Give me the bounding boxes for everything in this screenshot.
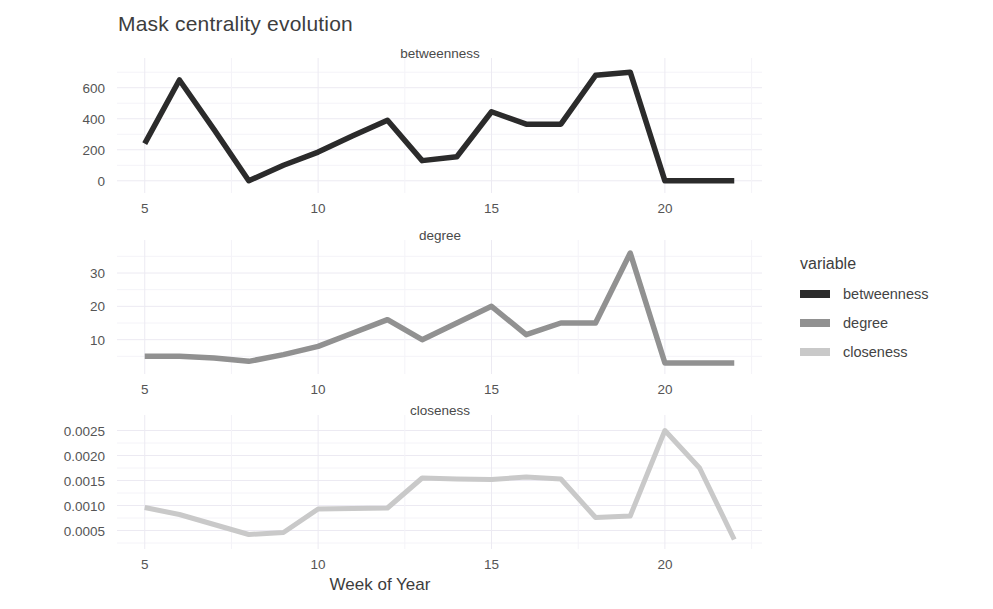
x-tick-label: 10 <box>311 382 326 397</box>
y-tick-label: 30 <box>0 266 105 281</box>
x-tick-label: 15 <box>484 557 499 572</box>
x-tick-label: 15 <box>484 201 499 216</box>
x-tick-label: 20 <box>657 201 672 216</box>
y-tick-label: 400 <box>0 111 105 126</box>
x-tick-label: 10 <box>311 201 326 216</box>
legend-swatch-closeness <box>800 348 830 356</box>
x-tick-label: 5 <box>141 201 149 216</box>
x-tick-label: 15 <box>484 382 499 397</box>
legend-item-betweenness[interactable]: betweenness <box>800 286 928 302</box>
legend-label-betweenness: betweenness <box>843 286 928 302</box>
y-tick-label: 0.0020 <box>0 448 105 463</box>
legend-title: variable <box>800 255 928 273</box>
legend-label-degree: degree <box>843 315 888 331</box>
x-tick-label: 20 <box>657 557 672 572</box>
legend-item-degree[interactable]: degree <box>800 315 928 331</box>
y-tick-label: 10 <box>0 332 105 347</box>
legend-item-closeness[interactable]: closeness <box>800 344 928 360</box>
y-tick-label: 0.0025 <box>0 423 105 438</box>
y-tick-label: 0 <box>0 173 105 188</box>
legend: variable betweenness degree closeness <box>800 255 928 373</box>
y-tick-label: 0.0015 <box>0 473 105 488</box>
y-tick-label: 600 <box>0 80 105 95</box>
x-tick-label: 5 <box>141 382 149 397</box>
y-tick-label: 0.0010 <box>0 498 105 513</box>
y-tick-label: 200 <box>0 142 105 157</box>
legend-swatch-degree <box>800 319 830 327</box>
y-tick-label: 0.0005 <box>0 523 105 538</box>
chart-root: Mask centrality evolution betweenness de… <box>0 0 993 609</box>
y-tick-label: 20 <box>0 299 105 314</box>
x-tick-label: 10 <box>311 557 326 572</box>
x-tick-label: 5 <box>141 557 149 572</box>
legend-label-closeness: closeness <box>843 344 907 360</box>
x-tick-label: 20 <box>657 382 672 397</box>
legend-swatch-betweenness <box>800 290 830 298</box>
data-line-closeness <box>145 431 735 540</box>
x-axis-label: Week of Year <box>0 575 760 595</box>
